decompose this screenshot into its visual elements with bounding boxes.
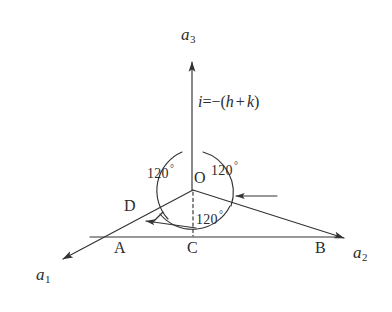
angle-value-upper-right: 120 [211,163,233,178]
equation-k: k [247,93,254,110]
figure-canvas [0,0,392,312]
equation-i-h-k: i=−(h+k) [198,94,259,110]
axis-label-a1-text: a [36,265,45,284]
point-label-B: B [315,240,326,256]
degree-symbol-upper-left: ° [169,163,175,174]
angle-label-upper-left: 120° [147,164,174,181]
angle-label-upper-right: 120° [211,161,238,178]
point-label-A: A [114,240,126,256]
equation-minus: − [211,93,220,110]
axis-label-a1-sub: 1 [45,273,51,285]
axis-label-a2-sub: 2 [362,251,368,263]
equation-close-paren: ) [254,93,259,110]
degree-symbol-upper-right: ° [233,160,239,171]
equation-h: h [226,93,234,110]
point-label-C: C [187,240,198,256]
hexagonal-axes-diagram: a3 a1 a2 i=−(h+k) O A B C D 120° 120° 12… [0,0,392,312]
point-label-D: D [124,198,136,214]
axis-label-a3-text: a [181,25,190,44]
axis-label-a2-text: a [353,243,362,262]
tick-line-D [153,212,163,222]
angle-label-lower: 120° [196,210,223,227]
axis-label-a3-sub: 3 [190,33,196,45]
axis-label-a2: a2 [353,244,368,263]
equation-plus: + [234,93,247,110]
axis-label-a3: a3 [181,26,196,45]
axis-label-a1: a1 [36,266,51,285]
degree-symbol-lower: ° [218,209,224,220]
angle-value-upper-left: 120 [147,166,169,181]
point-label-O: O [194,170,206,186]
angle-value-lower: 120 [196,212,218,227]
